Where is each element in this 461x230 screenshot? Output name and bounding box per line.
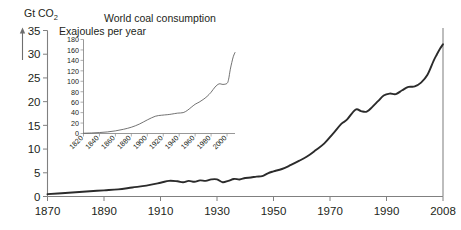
- main-y-tick-label: 0: [34, 191, 40, 203]
- main-y-tick-label: 20: [28, 96, 41, 108]
- co2-emissions-chart: Gt CO2 05101520253035 187018901910193019…: [0, 0, 461, 230]
- inset-y-tick-label: 160: [67, 46, 79, 55]
- main-y-tick-label: 5: [34, 167, 40, 179]
- main-x-tick-label: 1910: [148, 205, 174, 217]
- figure-container: Gt CO2 05101520253035 187018901910193019…: [0, 0, 461, 230]
- main-y-tick-label: 15: [28, 120, 41, 132]
- main-x-tick-label: 1950: [261, 205, 287, 217]
- main-x-tick-label: 1890: [91, 205, 117, 217]
- inset-y-tick-label: 60: [71, 98, 79, 107]
- main-y-tick-label: 30: [28, 48, 41, 60]
- main-y-tick-label: 25: [28, 72, 41, 84]
- inset-y-tick-label: 180: [67, 35, 79, 44]
- inset-y-tick-label: 140: [67, 56, 79, 65]
- inset-chart-title: World coal consumption: [104, 12, 216, 24]
- main-x-tick-label: 2008: [430, 205, 456, 217]
- main-x-tick-label: 1990: [374, 205, 400, 217]
- inset-y-tick-label: 100: [67, 77, 79, 86]
- inset-y-tick-label: 120: [67, 67, 79, 76]
- inset-y-tick-label: 20: [71, 119, 79, 128]
- inset-y-tick-label: 80: [71, 88, 79, 97]
- main-y-tick-label: 10: [28, 143, 41, 155]
- main-x-tick-label: 1970: [317, 205, 343, 217]
- main-x-tick-label: 1930: [204, 205, 230, 217]
- main-x-tick-label: 1870: [35, 205, 61, 217]
- inset-y-tick-label: 40: [71, 108, 79, 117]
- main-y-tick-label: 35: [28, 25, 41, 37]
